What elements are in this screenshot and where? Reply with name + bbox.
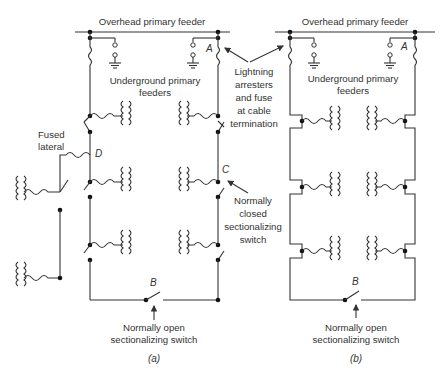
caption-b: (b) [350,353,362,364]
open-switch-label-b-1: Normally open [325,322,387,333]
transformer-icon [16,262,26,286]
open-sectionalizing-switch-b [345,291,359,300]
arrester-label-2: arresters [235,79,273,90]
open-switch-label-a-2: sectionalizing switch [111,334,198,345]
distribution-diagram: Overhead primary feeder A Underground pr… [0,0,445,376]
panel-b: Overhead primary feeder A Underground pr… [275,16,435,364]
lightning-arrester-icon [109,43,121,68]
fuse-icon [217,47,220,65]
overhead-feeder-label-a: Overhead primary feeder [99,16,206,27]
underground-label-a-2: feeders [139,87,171,98]
arrester-label-3: and fuse [236,92,273,103]
closed-switch-label-1: Normally [234,195,272,206]
arrester-label-5: termination [230,118,277,129]
panel-a: Overhead primary feeder A Underground pr… [16,16,283,364]
point-c-label: C [222,164,230,175]
transformer-icon [121,230,131,254]
closed-switch-label-4: switch [240,234,267,245]
fuse-icon [89,47,92,65]
transformer-icon [330,106,340,130]
transformer-icon [367,236,377,260]
transformer-icon [121,101,131,125]
arrester-label-1: Lightning [235,66,274,77]
transformer-icon [367,106,377,130]
point-d-label: D [95,148,102,159]
transformer-icon [330,236,340,260]
open-switch-label-a-1: Normally open [123,322,185,333]
lightning-arrester-icon [187,43,199,68]
point-a-label-b: A [400,41,408,52]
underground-label-b-1: Underground primary [308,73,399,84]
fused-lateral-label-2: lateral [38,141,64,152]
transformer-icon [179,101,189,125]
caption-a: (a) [148,353,160,364]
transformer-icon [16,176,26,200]
point-b-label-a: B [150,277,157,288]
transformer-icon [179,167,189,191]
transformer-icon [367,172,377,196]
transformer-icon [121,167,131,191]
closed-switch-label-3: sectionalizing [224,221,282,232]
open-sectionalizing-switch [146,292,160,300]
arrester-label-4: at cable [237,105,271,116]
closed-switch-label-2: closed [239,208,267,219]
transformer-icon [179,230,189,254]
point-b-label-b: B [352,276,359,287]
fused-lateral-label-1: Fused [38,129,65,140]
lightning-arrester-icon [308,43,320,68]
underground-label-b-2: feeders [337,85,369,96]
overhead-feeder-label-b: Overhead primary feeder [302,16,409,27]
underground-label-a-1: Underground primary [110,75,201,86]
open-switch-label-b-2: sectionalizing switch [313,334,400,345]
lightning-arrester-icon [384,43,396,68]
lateral-switch [60,180,68,192]
point-a-label: A [205,43,213,54]
transformer-icon [330,172,340,196]
